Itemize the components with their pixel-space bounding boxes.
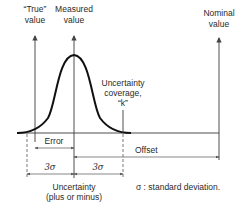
sigma-legend: σ : standard deviation. bbox=[136, 182, 220, 192]
svg-text:“k”: “k” bbox=[118, 98, 128, 108]
svg-text:Nominal: Nominal bbox=[203, 8, 234, 18]
uncertainty-caption: Uncertainty (plus or minus) bbox=[46, 182, 102, 202]
uncertainty-coverage-label: Uncertainty coverage, “k” bbox=[102, 78, 146, 108]
svg-text:“True”: “True” bbox=[24, 4, 47, 14]
three-sigma-left-label: 3σ bbox=[44, 162, 55, 172]
nominal-value-label: Nominal value bbox=[203, 8, 234, 29]
svg-text:Uncertainty: Uncertainty bbox=[53, 182, 97, 192]
svg-text:Measured: Measured bbox=[55, 4, 93, 14]
svg-text:value: value bbox=[209, 19, 230, 29]
uncertainty-diagram: “True” value Measured value Nominal valu… bbox=[0, 0, 243, 210]
svg-text:value: value bbox=[64, 15, 85, 25]
true-value-label: “True” value bbox=[24, 4, 47, 25]
offset-label: Offset bbox=[135, 145, 158, 155]
three-sigma-right-label: 3σ bbox=[92, 162, 103, 172]
error-label: Error bbox=[45, 136, 64, 146]
svg-text:(plus or minus): (plus or minus) bbox=[46, 192, 102, 202]
measured-value-label: Measured value bbox=[55, 4, 93, 25]
svg-text:value: value bbox=[25, 15, 46, 25]
svg-text:coverage,: coverage, bbox=[104, 88, 141, 98]
svg-text:Uncertainty: Uncertainty bbox=[102, 78, 146, 88]
